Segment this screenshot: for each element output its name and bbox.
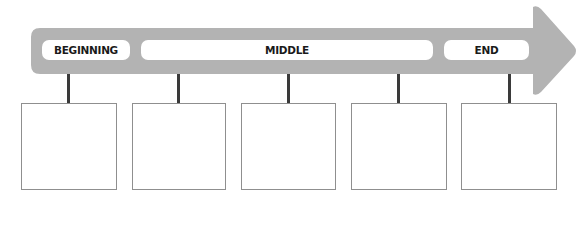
label-beginning: BEGINNING bbox=[42, 40, 130, 60]
label-middle: MIDDLE bbox=[141, 40, 433, 60]
event-box-2[interactable] bbox=[132, 103, 226, 190]
connector-stem-2 bbox=[177, 74, 180, 103]
label-end: END bbox=[444, 40, 529, 60]
connector-stem-3 bbox=[287, 74, 290, 103]
event-box-3[interactable] bbox=[241, 103, 336, 190]
connector-stem-1 bbox=[67, 74, 70, 103]
event-box-1[interactable] bbox=[21, 103, 117, 190]
event-box-5[interactable] bbox=[461, 103, 557, 190]
event-box-4[interactable] bbox=[351, 103, 447, 190]
connector-stem-4 bbox=[397, 74, 400, 103]
connector-stem-5 bbox=[508, 74, 511, 103]
